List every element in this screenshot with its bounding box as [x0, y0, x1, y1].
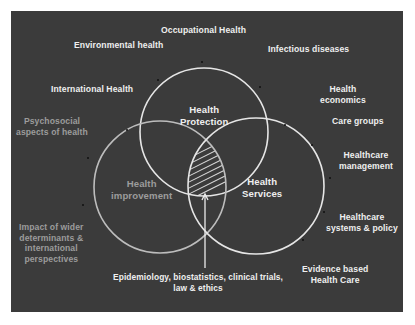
- label-epidemiology: Epidemiology, biostatistics, clinical tr…: [113, 272, 283, 293]
- label-healthcare-systems: Healthcare systems & policy: [326, 212, 398, 233]
- label-line: international: [19, 243, 84, 254]
- label-line: Psychosocial: [16, 116, 88, 127]
- label-line: systems & policy: [326, 223, 398, 234]
- label-line: Protection: [180, 116, 228, 128]
- label-line: Occupational Health: [161, 25, 246, 36]
- label-evidence-based: Evidence based Health Care: [302, 264, 368, 285]
- label-line: determinants &: [19, 233, 84, 244]
- label-international-health: International Health: [51, 84, 133, 95]
- label-environmental-health: Environmental health: [74, 40, 163, 51]
- label-line: law & ethics: [113, 283, 283, 294]
- label-occupational-health: Occupational Health: [161, 25, 246, 36]
- label-line: perspectives: [19, 254, 84, 265]
- label-line: Evidence based: [302, 264, 368, 275]
- label-psychosocial: Psychosocial aspects of health: [16, 116, 88, 137]
- label-line: economics: [320, 95, 366, 106]
- label-line: Health: [111, 178, 172, 190]
- label-health-improvement: Health improvement: [111, 178, 172, 202]
- label-line: Health: [242, 176, 282, 188]
- label-impact-wider: Impact of wider determinants & internati…: [19, 222, 84, 264]
- label-health-services: Health Services: [242, 176, 282, 200]
- label-health-economics: Health economics: [320, 84, 366, 105]
- label-health-protection: Health Protection: [180, 104, 228, 128]
- label-line: Care groups: [332, 116, 384, 127]
- label-care-groups: Care groups: [332, 116, 384, 127]
- label-line: Health Care: [302, 275, 368, 286]
- label-line: Health: [320, 84, 366, 95]
- label-line: Healthcare: [326, 212, 398, 223]
- label-line: Impact of wider: [19, 222, 84, 233]
- label-line: Health: [180, 104, 228, 116]
- label-line: Epidemiology, biostatistics, clinical tr…: [113, 272, 283, 283]
- label-line: improvement: [111, 190, 172, 202]
- arrow-up-icon: [202, 194, 208, 268]
- label-line: management: [339, 161, 393, 172]
- label-healthcare-management: Healthcare management: [339, 150, 393, 171]
- label-line: Infectious diseases: [268, 44, 349, 55]
- label-line: International Health: [51, 84, 133, 95]
- label-line: Healthcare: [339, 150, 393, 161]
- label-line: Environmental health: [74, 40, 163, 51]
- label-line: Services: [242, 188, 282, 200]
- label-line: aspects of health: [16, 127, 88, 138]
- label-infectious-diseases: Infectious diseases: [268, 44, 349, 55]
